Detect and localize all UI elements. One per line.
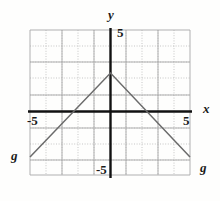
x-axis-label: x <box>203 102 210 115</box>
y-axis-label: y <box>108 8 114 21</box>
graph-figure: y x 5 -5 -5 5 g g <box>0 0 220 201</box>
x-axis-max-tick-label: 5 <box>183 114 190 127</box>
y-axis-max-tick-label: 5 <box>117 26 124 39</box>
coordinate-plane-svg <box>0 0 220 201</box>
x-axis-min-tick-label: -5 <box>27 114 38 127</box>
y-axis-min-tick-label: -5 <box>96 163 107 176</box>
curve-label-g-left: g <box>11 149 18 162</box>
curve-label-g-right: g <box>200 161 207 174</box>
